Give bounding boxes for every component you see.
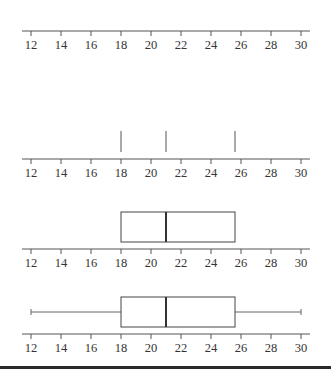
tick-label: 28 [265, 38, 278, 52]
iqr-box [121, 212, 235, 242]
panel-step-1: 12141618202224262830 [22, 31, 310, 52]
tick-label: 12 [25, 166, 38, 180]
tick-label: 20 [145, 256, 158, 270]
tick-label: 28 [265, 341, 278, 355]
panel-step-4: 12141618202224262830 [22, 297, 310, 355]
tick-label: 26 [235, 256, 248, 270]
tick-label: 22 [175, 166, 188, 180]
tick-label: 16 [85, 256, 98, 270]
tick-label: 12 [25, 256, 38, 270]
tick-label: 14 [55, 166, 68, 180]
tick-label: 26 [235, 166, 248, 180]
iqr-box [121, 297, 235, 327]
tick-label: 24 [205, 166, 218, 180]
panel-step-2: 12141618202224262830 [22, 131, 310, 180]
tick-label: 12 [25, 341, 38, 355]
tick-label: 28 [265, 256, 278, 270]
tick-label: 22 [175, 341, 188, 355]
tick-label: 30 [295, 166, 308, 180]
box-plot-construction-chart: 1214161820222426283012141618202224262830… [0, 0, 331, 386]
bottom-rule [0, 366, 331, 369]
tick-label: 22 [175, 38, 188, 52]
tick-label: 26 [235, 341, 248, 355]
tick-label: 26 [235, 38, 248, 52]
tick-label: 14 [55, 38, 68, 52]
tick-label: 18 [115, 166, 128, 180]
tick-label: 20 [145, 38, 158, 52]
tick-label: 18 [115, 38, 128, 52]
tick-label: 16 [85, 166, 98, 180]
tick-label: 16 [85, 38, 98, 52]
tick-label: 24 [205, 38, 218, 52]
tick-label: 20 [145, 166, 158, 180]
tick-label: 24 [205, 256, 218, 270]
tick-label: 28 [265, 166, 278, 180]
tick-label: 18 [115, 341, 128, 355]
tick-label: 12 [25, 38, 38, 52]
tick-label: 20 [145, 341, 158, 355]
tick-label: 22 [175, 256, 188, 270]
tick-label: 30 [295, 256, 308, 270]
tick-label: 24 [205, 341, 218, 355]
tick-label: 16 [85, 341, 98, 355]
tick-label: 30 [295, 38, 308, 52]
tick-label: 14 [55, 256, 68, 270]
panels: 1214161820222426283012141618202224262830… [22, 31, 310, 355]
tick-label: 14 [55, 341, 68, 355]
tick-label: 18 [115, 256, 128, 270]
panel-step-3: 12141618202224262830 [22, 212, 310, 270]
tick-label: 30 [295, 341, 308, 355]
